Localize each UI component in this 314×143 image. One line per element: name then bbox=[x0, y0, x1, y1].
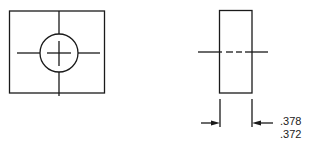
arrow-left-icon bbox=[252, 121, 261, 126]
front-view bbox=[10, 11, 105, 96]
front-view-outline bbox=[10, 11, 105, 93]
side-view bbox=[198, 11, 273, 128]
dimension-lower-limit: .372 bbox=[280, 128, 301, 140]
dimension-arrowheads bbox=[211, 121, 261, 126]
dimension-upper-limit: .378 bbox=[280, 115, 301, 127]
technical-drawing: .378 .372 bbox=[0, 0, 314, 143]
arrow-right-icon bbox=[211, 121, 220, 126]
